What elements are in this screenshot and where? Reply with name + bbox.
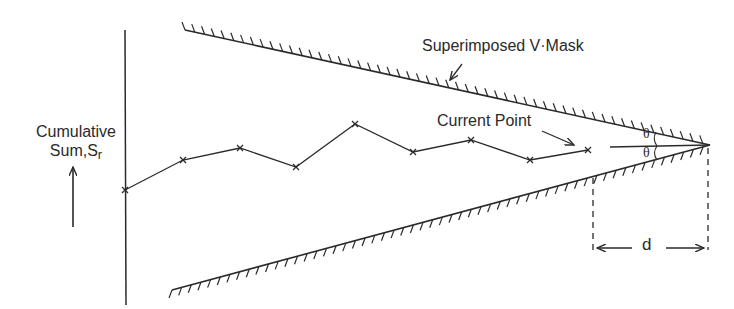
lead-distance-label: d — [642, 235, 651, 255]
y-axis-line — [125, 30, 126, 305]
y-axis-label-line2: Sum,Sr — [34, 141, 118, 164]
cusum-series-line — [125, 124, 588, 190]
current-point-label: Current Point — [437, 112, 531, 130]
hatch-mark — [169, 290, 172, 298]
v-mask-label: Superimposed V·Mask — [422, 37, 584, 55]
v-mask-lower-arm — [169, 145, 710, 298]
y-axis-label-line1: Cumulative — [34, 122, 118, 141]
angle-theta-lower-label: θ — [643, 145, 650, 161]
mask-label-pointer-arrow-icon — [450, 64, 462, 80]
hatch-mark — [182, 22, 185, 30]
angle-theta-upper-label: θ — [643, 126, 650, 142]
lower-arm-hatch-marks — [169, 147, 703, 298]
y-axis-label-sum: Sum,S — [50, 142, 98, 159]
angle-arc-lower — [655, 146, 658, 160]
y-axis-label: Cumulative Sum,Sr — [34, 122, 118, 164]
v-mask-centre-line — [610, 145, 710, 147]
y-axis-label-subscript: r — [98, 147, 102, 162]
current-point-pointer-arrow-icon — [542, 131, 574, 145]
